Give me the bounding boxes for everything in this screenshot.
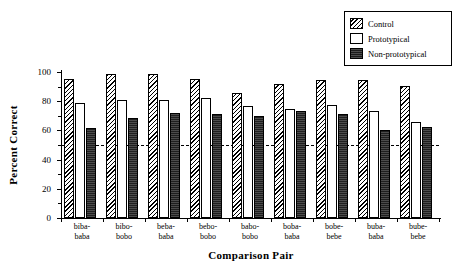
bar-group [103,72,145,218]
bar-control [358,80,368,218]
bar-control [190,79,200,218]
bar-non-prototypical [212,114,222,218]
x-axis-category-label: buba-baba [355,222,397,242]
legend-swatch-control-icon [350,18,363,29]
legend-item-prototypical: Prototypical [350,31,447,46]
bar-control [64,79,74,218]
bar-non-prototypical [170,113,180,218]
y-axis-tick-label: 100 [38,68,52,77]
bar-chart: Control Prototypical Non-prototypical Pe… [0,0,462,274]
bar-prototypical [201,98,211,218]
x-axis-category-label: bube-bebe [397,222,439,242]
bar-prototypical [159,100,169,218]
bar-prototypical [411,122,421,218]
bar-control [148,74,158,218]
bar-non-prototypical [380,130,390,218]
bar-group [187,72,229,218]
bar-non-prototypical [128,118,138,218]
y-axis-title: Percent Correct [6,72,20,218]
x-axis-category-label: babo-bobo [229,222,271,242]
x-axis-category-label: biba-baba [61,222,103,242]
bar-prototypical [243,106,253,218]
legend-label-prototypical: Prototypical [368,34,410,44]
y-axis-tick-label: 80 [42,97,51,106]
legend-label-control: Control [368,19,394,29]
y-axis-tick-label: 60 [42,126,51,135]
legend-swatch-prototypical-icon [350,33,363,44]
x-axis-category-label: boba-baba [271,222,313,242]
x-axis-category-label: bebo-bobo [187,222,229,242]
bar-control [274,84,284,218]
bar-non-prototypical [296,111,306,218]
y-axis-tick-label: 20 [42,184,51,193]
x-axis-category-label: beba-baba [145,222,187,242]
bar-control [232,93,242,218]
y-axis-title-text: Percent Correct [7,105,19,185]
bar-non-prototypical [338,114,348,218]
bar-control [400,86,410,218]
bar-prototypical [117,100,127,218]
x-axis-title: Comparison Pair [61,249,441,261]
legend-swatch-non-prototypical-icon [350,48,363,59]
plot-area: 020406080100 [61,72,439,218]
x-axis-category-label: bibo-bobo [103,222,145,242]
bar-non-prototypical [254,116,264,218]
bar-prototypical [327,105,337,218]
x-axis-line [61,218,441,219]
legend-item-non-prototypical: Non-prototypical [350,46,447,61]
y-axis-tick-label: 40 [42,155,51,164]
bar-group [229,72,271,218]
bar-group [271,72,313,218]
chart-legend: Control Prototypical Non-prototypical [344,11,452,66]
legend-item-control: Control [350,16,447,31]
bar-group [61,72,103,218]
bar-group [397,72,439,218]
bar-control [316,80,326,218]
bar-prototypical [75,103,85,218]
bar-non-prototypical [422,127,432,218]
bar-prototypical [285,109,295,219]
bar-non-prototypical [86,128,96,218]
y-axis-tick-label: 0 [47,214,52,223]
bar-group [355,72,397,218]
legend-label-non-prototypical: Non-prototypical [368,49,427,59]
x-axis-tick [439,218,440,222]
bar-control [106,74,116,218]
bar-group [313,72,355,218]
x-axis-category-label: bobe-bebe [313,222,355,242]
bar-prototypical [369,111,379,218]
bar-group [145,72,187,218]
